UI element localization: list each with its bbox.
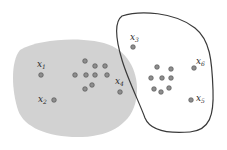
data-point (149, 76, 154, 81)
label-x6: x6 (196, 56, 205, 67)
point-x3 (131, 45, 136, 50)
data-point (105, 73, 110, 78)
data-point (93, 64, 98, 69)
data-point (84, 73, 89, 78)
point-x6 (192, 66, 197, 71)
data-point (73, 73, 78, 78)
data-point (83, 87, 88, 92)
data-point (159, 90, 164, 95)
data-point (155, 65, 160, 70)
label-x5: x5 (196, 93, 205, 104)
data-point (93, 73, 98, 78)
cluster-diagram: x1 x2 x3 x4 x5 x6 (0, 0, 227, 150)
label-x3: x3 (130, 32, 139, 43)
data-point (169, 67, 174, 72)
point-x4 (118, 90, 123, 95)
data-point (169, 76, 174, 81)
right-cluster-points (149, 65, 174, 95)
data-point (90, 83, 95, 88)
data-point (167, 86, 172, 91)
data-point (160, 76, 165, 81)
point-x1 (39, 73, 44, 78)
point-x2 (52, 98, 57, 103)
data-point (103, 64, 108, 69)
data-point (152, 87, 157, 92)
left-cluster-region (13, 40, 137, 137)
point-x5 (189, 98, 194, 103)
data-point (83, 59, 88, 64)
